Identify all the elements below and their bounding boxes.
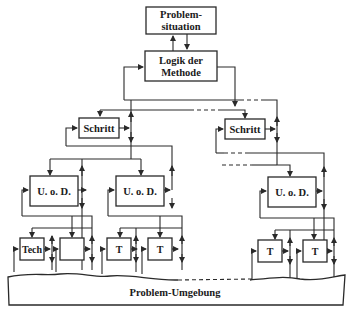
node-schritt-left: Schritt xyxy=(79,118,119,138)
svg-text:T: T xyxy=(116,244,123,255)
node-uod-1: U. o. D. xyxy=(30,176,78,206)
svg-text:Tech: Tech xyxy=(22,244,43,255)
svg-text:situation: situation xyxy=(161,21,200,32)
svg-text:T: T xyxy=(157,244,164,255)
svg-text:T: T xyxy=(312,246,319,257)
svg-text:U. o. D.: U. o. D. xyxy=(123,186,157,197)
svg-text:Methode: Methode xyxy=(161,67,201,78)
node-uod-3: U. o. D. xyxy=(268,177,316,207)
svg-text:Schritt: Schritt xyxy=(84,123,115,134)
method-hierarchy-diagram: Problem-Umgebung Problem- situation Logi… xyxy=(0,0,351,312)
node-leaf-t-4: T xyxy=(303,240,327,262)
svg-text:U. o. D.: U. o. D. xyxy=(275,187,309,198)
environment-label: Problem-Umgebung xyxy=(130,287,222,298)
svg-text:U. o. D.: U. o. D. xyxy=(37,186,71,197)
node-problem-situation: Problem- situation xyxy=(146,7,216,34)
svg-text:T: T xyxy=(267,246,274,257)
node-schritt-right: Schritt xyxy=(225,119,265,139)
node-leaf-t-3: T xyxy=(258,240,282,262)
node-leaf-tech: Tech xyxy=(20,238,44,260)
node-leaf-t-2: T xyxy=(148,238,172,260)
svg-text:Problem-: Problem- xyxy=(160,9,202,20)
problem-environment: Problem-Umgebung xyxy=(8,274,345,305)
node-leaf-empty xyxy=(60,238,84,260)
svg-text:Logik der: Logik der xyxy=(159,55,203,66)
node-logik-der-methode: Logik der Methode xyxy=(145,51,217,81)
svg-text:Schritt: Schritt xyxy=(230,124,261,135)
node-uod-2: U. o. D. xyxy=(116,176,164,206)
node-leaf-t-1: T xyxy=(107,238,131,260)
